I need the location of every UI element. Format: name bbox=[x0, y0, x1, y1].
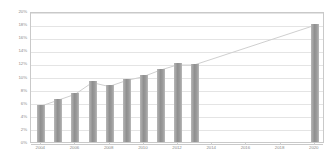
x-axis-tick-mark bbox=[143, 143, 144, 145]
y-axis-tick-label: 12% bbox=[19, 62, 28, 66]
x-axis-tick-mark bbox=[211, 143, 212, 145]
x-axis-tick-label: 2018 bbox=[275, 146, 284, 150]
bar bbox=[106, 85, 114, 142]
y-axis-tick-label: 6% bbox=[21, 101, 27, 105]
bar bbox=[54, 99, 62, 142]
y-axis-tick-label: 20% bbox=[19, 10, 28, 14]
y-axis: 20%18%16%14%12%10%8%6%4%2%0% bbox=[0, 12, 30, 143]
y-axis-tick-label: 8% bbox=[21, 88, 27, 92]
x-axis-tick-label: 2008 bbox=[104, 146, 113, 150]
y-axis-tick-label: 4% bbox=[21, 115, 27, 119]
bar bbox=[37, 105, 45, 142]
x-axis-tick-mark bbox=[245, 143, 246, 145]
x-axis-tick-label: 2020 bbox=[309, 146, 318, 150]
x-axis-tick-mark bbox=[177, 143, 178, 145]
x-axis-tick-label: 2006 bbox=[70, 146, 79, 150]
bar bbox=[157, 69, 165, 142]
x-axis-tick-label: 2012 bbox=[172, 146, 181, 150]
x-axis-tick-label: 2010 bbox=[138, 146, 147, 150]
bar bbox=[140, 75, 148, 142]
y-axis-tick-label: 2% bbox=[21, 128, 27, 132]
bar bbox=[89, 81, 97, 142]
bar bbox=[123, 79, 131, 142]
plot-area bbox=[30, 12, 324, 143]
x-axis-tick-mark bbox=[109, 143, 110, 145]
x-axis-tick-mark bbox=[280, 143, 281, 145]
y-axis-tick-label: 14% bbox=[19, 49, 28, 53]
x-axis-tick-label: 2016 bbox=[241, 146, 250, 150]
x-axis-tick-mark bbox=[40, 143, 41, 145]
bar bbox=[191, 64, 199, 142]
x-axis: 200420062008201020122014201620182020 bbox=[30, 144, 324, 162]
bar bbox=[71, 93, 79, 142]
x-axis-tick-label: 2004 bbox=[36, 146, 45, 150]
bar bbox=[174, 63, 182, 142]
bar bbox=[311, 24, 319, 142]
y-axis-tick-label: 10% bbox=[19, 75, 28, 79]
bar-series bbox=[31, 13, 323, 142]
x-axis-tick-mark bbox=[314, 143, 315, 145]
y-axis-tick-label: 0% bbox=[21, 141, 27, 145]
x-axis-tick-label: 2014 bbox=[206, 146, 215, 150]
y-axis-tick-label: 16% bbox=[19, 36, 28, 40]
bar-chart: 20%18%16%14%12%10%8%6%4%2%0% 20042006200… bbox=[0, 0, 332, 165]
y-axis-tick-label: 18% bbox=[19, 23, 28, 27]
x-axis-tick-mark bbox=[74, 143, 75, 145]
